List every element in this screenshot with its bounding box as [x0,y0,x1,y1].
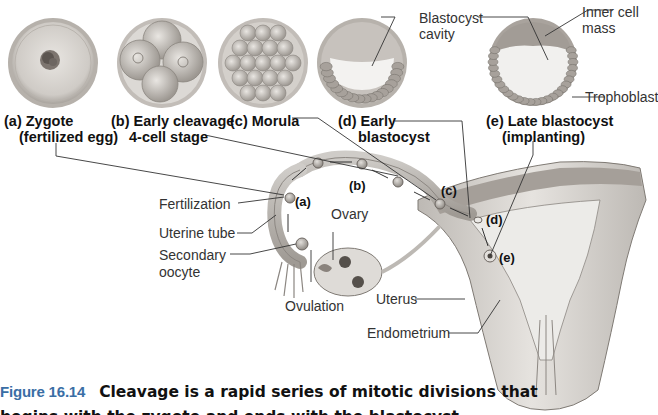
secondary-oocyte-label: Secondary [159,247,226,263]
trophoblast-cell [320,62,332,70]
endometrium-label: Endometrium [367,325,450,341]
morula-cell [247,70,263,86]
secondary-oocyte-sublabel: oocyte [159,264,200,280]
morula-cell [270,25,286,41]
fertilization-label: Fertilization [159,196,231,212]
marker-d: (d) [486,212,503,228]
caption-title: Cleavage is a rapid series of mitotic di… [99,383,537,401]
marker-c: (c) [441,183,457,199]
ovulation-label: Ovulation [285,298,344,314]
morula-cell [240,55,256,71]
morula-cell [270,85,286,101]
early-blastocyst-illustration [317,18,407,108]
blastocyst-cavity-sublabel: cavity [419,26,455,42]
morula-cell [232,70,248,86]
morula-cell [285,55,301,71]
morula-cell [240,85,256,101]
stage-c-label: (c) Morula [230,113,299,129]
marker-a: (a) [295,194,311,210]
morula-cell [270,55,286,71]
morula-cell [247,40,263,56]
stage-e-sublabel: (implanting) [502,129,585,145]
marker-b: (b) [349,178,366,194]
trophoblast-cell [490,47,500,54]
ovary-label: Ovary [331,206,368,222]
morula-cell [277,40,293,56]
stage-a-label: (a) Zygote [4,113,73,129]
morula-cell [232,40,248,56]
uterine-tube-label: Uterine tube [159,225,235,241]
inner-cell-mass-sublabel: mass [582,20,615,36]
trophoblast-label: Trophoblast [585,89,658,105]
uterus-label: Uterus [376,291,417,307]
stage-b-sublabel: 4-cell stage [129,129,208,145]
morula-cell [277,70,293,86]
morula-cell [255,25,271,41]
blastocyst-cavity-label: Blastocyst [419,10,483,26]
stage-d-sublabel: blastocyst [358,129,430,145]
stage-d-label: (d) Early [338,113,396,129]
morula-illustration [218,18,308,108]
morula-cell [240,25,256,41]
reproductive-tract [274,158,646,411]
stage-b-label: (b) Early cleavage [111,113,234,129]
four-cell-illustration [117,18,207,108]
inner-cell-mass-label: Inner cell [582,4,639,20]
morula-cell [255,55,271,71]
morula-cell [262,70,278,86]
morula-cell [262,40,278,56]
figure-number: Figure 16.14 [0,383,85,400]
morula-cell [225,55,241,71]
stage-e-label: (e) Late blastocyst [486,113,613,129]
marker-e: (e) [499,250,515,266]
caption-line-2: begins with the zygote and ends with the… [0,408,465,415]
morula-cell [255,85,271,101]
stage-a-sublabel: (fertilized egg) [19,129,118,145]
late-blastocyst-illustration [488,18,578,106]
zygote-illustration [8,18,98,108]
figure-caption: Figure 16.14Cleavage is a rapid series o… [0,382,655,415]
